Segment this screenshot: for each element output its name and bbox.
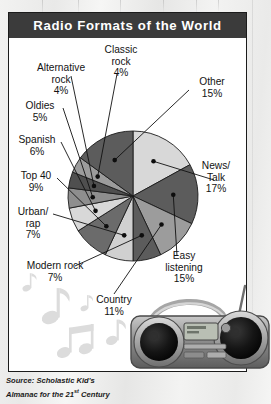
- pie-label-alternative-rock: Alternative rock 4%: [23, 62, 99, 97]
- leader-dot: [122, 233, 127, 238]
- page-title: Radio Formats of the World: [33, 18, 221, 33]
- leader-dot: [95, 174, 100, 179]
- source-line-2-pre: Almanac for the 21: [6, 390, 74, 399]
- speaker-left-cone: [150, 332, 158, 340]
- leader-dot: [112, 158, 117, 163]
- button-row[interactable]: [207, 352, 226, 358]
- speaker-left: [140, 323, 178, 361]
- source-citation: Source: Scholastic Kid's Almanac for the…: [6, 376, 186, 400]
- pie-label-top-40: Top 40 9%: [9, 170, 63, 193]
- pie-label-oldies: Oldies 5%: [13, 100, 67, 123]
- leader-dot: [139, 233, 144, 238]
- cassette-slot[interactable]: [184, 352, 204, 358]
- pie-slices: [68, 131, 198, 261]
- pie-label-urban-rap: Urban/ rap 7%: [9, 206, 57, 241]
- pie-label-classic-rock: Classic rock 4%: [91, 44, 151, 79]
- pie-label-easy-listening: Easy listening 15%: [155, 250, 213, 285]
- pie-label-spanish: Spanish 6%: [9, 134, 65, 157]
- leader-dot: [104, 224, 109, 229]
- leader-dot: [92, 184, 97, 189]
- volume-knob[interactable]: [221, 323, 230, 332]
- backdrop-streak: [218, 0, 219, 11]
- leader-dot: [159, 222, 164, 227]
- display-text: [187, 326, 206, 329]
- leader-dot: [90, 195, 95, 200]
- pie-label-modern-rock: Modern rock 7%: [13, 260, 97, 283]
- leader-dot: [93, 209, 98, 214]
- speaker-right-cone: [231, 328, 240, 337]
- backdrop-streak: [163, 0, 164, 12]
- pie-label-other: Other 15%: [185, 76, 239, 99]
- source-line-2: Almanac for the 21st Century: [6, 386, 186, 400]
- pie-label-news-talk: News/ Talk 17%: [191, 160, 241, 195]
- leader-dot: [171, 192, 176, 197]
- source-line-2-post: Century: [79, 390, 110, 399]
- source-line-1: Source: Scholastic Kid's: [6, 376, 186, 386]
- boombox-icon: [125, 282, 271, 378]
- button-row[interactable]: [184, 344, 226, 349]
- panel-title-bar: Radio Formats of the World: [9, 13, 246, 38]
- boombox-illustration: [125, 282, 271, 378]
- leader-dot: [151, 159, 156, 164]
- display-text: [187, 331, 199, 333]
- infographic-root: Radio Formats of the World: [0, 0, 271, 404]
